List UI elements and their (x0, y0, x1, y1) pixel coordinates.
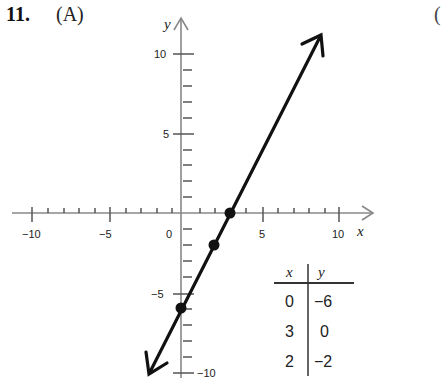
x-axis (12, 206, 373, 222)
x-tick-neg5: −5 (99, 228, 112, 240)
values-table: x y 0 −6 3 0 2 −2 (274, 264, 354, 376)
table-row-3-x: 2 (285, 353, 294, 370)
table-row-1-x: 0 (285, 293, 294, 310)
y-tick-neg10: −10 (197, 367, 216, 378)
graph-line (146, 35, 323, 374)
table-row-3-y: −2 (314, 353, 332, 370)
table-row-1-y: −6 (314, 293, 332, 310)
y-tick-neg5: −5 (151, 288, 164, 300)
x-tick-pos5: 5 (259, 228, 265, 240)
point-2-neg2 (209, 240, 220, 251)
x-axis-label: x (356, 223, 364, 239)
point-0-neg6 (176, 303, 187, 314)
point-3-0 (225, 208, 236, 219)
table-header-y: y (316, 264, 325, 280)
x-tick-zero: 0 (166, 228, 172, 240)
arrow-head-bottom (146, 352, 167, 374)
y-tick-pos10: 10 (154, 48, 166, 60)
y-tick-pos5: 5 (163, 128, 169, 140)
table-row-2-x: 3 (285, 323, 294, 340)
x-tick-neg10: −10 (22, 228, 41, 240)
table-row-2-y: 0 (320, 323, 329, 340)
table-header-x: x (285, 264, 293, 280)
x-tick-pos10: 10 (332, 228, 344, 240)
coordinate-plane: −10 −5 0 5 10 x y (0, 0, 442, 378)
y-axis-label: y (162, 16, 171, 32)
